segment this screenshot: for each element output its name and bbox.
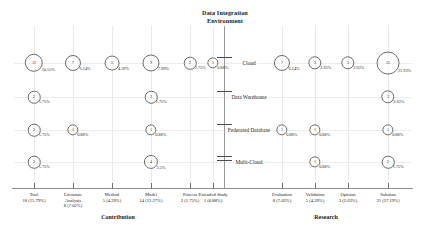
gridline-horizontal [14, 97, 412, 98]
column-label-solution: Solution31 (27.19%) [358, 192, 418, 203]
bubble-value: 1 [387, 128, 389, 132]
x-axis-tick [315, 183, 316, 189]
chart-title-line-1: Data Integration [185, 9, 265, 17]
x-axis-tick [151, 183, 152, 189]
bubble-value: 25 [386, 61, 390, 65]
bubble: 12 [25, 54, 43, 72]
x-axis-tick [73, 183, 74, 189]
bubble-value: 3 [314, 61, 316, 65]
bubble-value: 1 [72, 128, 74, 132]
bubble-percent-label: 21.93% [398, 67, 411, 72]
center-axis-tick [217, 57, 232, 58]
bubble-value: 12 [32, 61, 36, 65]
gridline-horizontal [14, 162, 412, 163]
row-label-federated-database: Federated Database [226, 127, 271, 133]
bubble-value: 3 [387, 95, 389, 99]
bubble-value: 1 [212, 61, 214, 65]
bubble-percent-label: 4.39% [118, 65, 129, 70]
bubble-percent-label: 0.88% [319, 131, 330, 136]
bubble-percent-label: 6.14% [80, 66, 91, 71]
bubble: 25 [377, 52, 400, 75]
bubble-percent-label: 2.63% [393, 99, 404, 104]
bubble-percent-label: 6.14% [289, 66, 300, 71]
bubble: 9 [142, 54, 159, 71]
bubble-value: 3 [347, 61, 349, 65]
bubble-value: 7 [72, 61, 74, 65]
bubble-percent-label: 1.75% [393, 164, 404, 169]
bubble-value: 5 [111, 61, 113, 65]
bubble-value: 2 [33, 95, 35, 99]
center-axis-spine [224, 26, 225, 188]
x-axis-tick [282, 183, 283, 189]
bubble-percent-label: 7.89% [158, 66, 169, 71]
bubble-percent-label: 1.75% [39, 99, 50, 104]
group-label-research: Research [286, 214, 366, 220]
center-axis-tick [217, 156, 232, 161]
bubble-percent-label: 0.88% [392, 131, 403, 136]
column-total: 8 (7.02%) [43, 203, 103, 209]
bubble-percent-label: 10.55% [42, 66, 55, 71]
bubble-percent-label: 0.88% [217, 64, 228, 69]
bubble-percent-label: 0.88% [77, 131, 88, 136]
bubble-value: 7 [281, 61, 283, 65]
bubble-value: 9 [150, 61, 152, 65]
column-total: 1 (0.88%) [183, 198, 243, 204]
center-axis-tick [217, 124, 232, 125]
bubble-percent-label: 0.88% [319, 163, 330, 168]
bubble-value: 1 [281, 128, 283, 132]
x-axis-tick [34, 183, 35, 189]
bubble-value: 2 [387, 160, 389, 164]
bubble-percent-label: 0.88% [286, 131, 297, 136]
row-label-data-warehouse: Data Warehouse [230, 94, 268, 100]
bubble-percent-label: 1.75% [195, 65, 206, 70]
bubble-value: 4 [150, 160, 152, 164]
bubble-value: 2 [33, 160, 35, 164]
group-label-contribution: Contribution [78, 214, 158, 220]
bubble-value: 2 [33, 128, 35, 132]
x-axis-tick [112, 183, 113, 189]
column-label-extended-study: Extended Study1 (0.88%) [183, 192, 243, 203]
bubble-percent-label: 1.75% [39, 164, 50, 169]
x-axis-tick [348, 183, 349, 189]
x-axis-tick [213, 183, 214, 189]
bubble-value: 2 [189, 61, 191, 65]
row-label-multi-cloud: Multi-Cloud [234, 159, 264, 165]
bubble-percent-label: 1.75% [39, 132, 50, 137]
x-axis-tick [388, 183, 389, 189]
bubble-percent-label: 3.5% [157, 164, 166, 169]
chart-title-line-2: Environment [185, 17, 265, 25]
x-axis-tick [190, 183, 191, 189]
bubble-value: 1 [150, 128, 152, 132]
bubble-value: 2 [150, 95, 152, 99]
bubble-percent-label: 2.63% [320, 65, 331, 70]
bubble-value: 1 [314, 160, 316, 164]
bubble-percent-label: 0.88% [155, 131, 166, 136]
bubble-percent-label: 2.63% [353, 65, 364, 70]
column-total: 31 (27.19%) [358, 198, 418, 204]
bubble-value: 1 [314, 128, 316, 132]
bubble-matrix-chart: Data Integration Environment CloudData W… [0, 0, 425, 231]
center-axis-tick [217, 91, 232, 92]
row-label-cloud: Cloud [241, 60, 257, 66]
bubble-percent-label: 1.75% [156, 99, 167, 104]
